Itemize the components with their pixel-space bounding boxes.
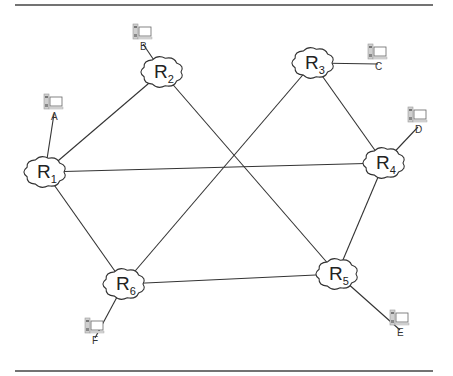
host-label: D	[415, 124, 422, 135]
computer-icon	[133, 24, 152, 39]
host-c: C	[368, 44, 387, 72]
computer-icon	[85, 318, 104, 333]
router-r1: R1	[24, 157, 65, 188]
host-a: A	[44, 94, 63, 122]
host-e: E	[390, 310, 409, 338]
computer-icon	[390, 310, 409, 325]
host-label: C	[375, 61, 382, 72]
link-r5-r6	[124, 274, 337, 284]
host-b: B	[133, 24, 152, 52]
computer-icon	[368, 44, 387, 59]
computer-icon	[44, 94, 63, 109]
host-d: D	[408, 107, 427, 135]
router-r6: R6	[103, 269, 144, 300]
link-r4-r5	[337, 163, 384, 274]
router-r5: R5	[316, 259, 357, 290]
network-diagram: R1R2R3R4R5R6 ABCDEF	[0, 0, 453, 376]
link-r2-r5	[162, 72, 337, 274]
host-links-layer	[45, 44, 418, 338]
hosts-layer: ABCDEF	[44, 24, 427, 346]
routers-layer: R1R2R3R4R5R6	[24, 48, 404, 300]
router-r3: R3	[292, 48, 333, 79]
link-r1-r6	[45, 172, 124, 284]
link-r1-r4	[45, 163, 384, 172]
router-r2: R2	[141, 57, 182, 88]
computer-icon	[408, 107, 427, 122]
router-r4: R4	[363, 148, 404, 179]
links-layer	[45, 63, 384, 284]
link-r3-r6	[124, 63, 313, 284]
link-r3-r4	[313, 63, 384, 163]
link-r1-r2	[45, 72, 162, 172]
host-label: E	[397, 327, 404, 338]
host-label: B	[140, 41, 147, 52]
host-label: F	[92, 335, 98, 346]
host-label: A	[51, 111, 58, 122]
host-f: F	[85, 318, 104, 346]
